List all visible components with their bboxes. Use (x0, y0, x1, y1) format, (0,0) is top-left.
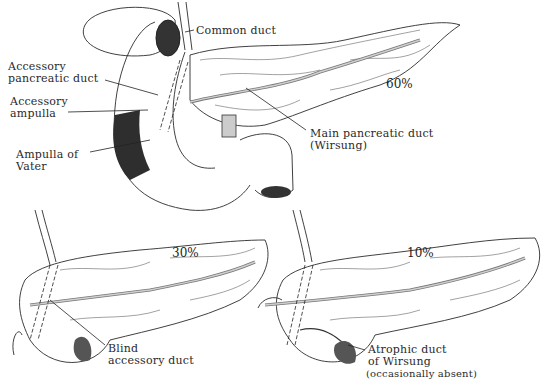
label-ampulla-vater-line2: Vater (16, 161, 47, 173)
leader-main-duct (246, 88, 306, 130)
percentage-30: 30% (172, 246, 199, 260)
label-atrophic-line3: (occasionally absent) (366, 368, 477, 380)
label-accessory-duct-line2: pancreatic duct (8, 73, 98, 85)
label-main-duct-line2: (Wirsung) (310, 140, 367, 152)
illustration-artwork (0, 0, 548, 386)
label-common-duct: Common duct (196, 25, 276, 37)
label-atrophic-line2: of Wirsung (368, 356, 431, 368)
label-blind-accessory-line2: accessory duct (108, 355, 194, 367)
percentage-60: 60% (386, 77, 413, 91)
pancreatic-duct-variations-illustration: Common duct Accessory pancreatic duct Ac… (0, 0, 548, 386)
pancreas-10pct (258, 210, 540, 364)
duodenum (113, 20, 293, 210)
percentage-10: 10% (407, 246, 434, 260)
main-pancreas (190, 23, 460, 127)
label-accessory-ampulla-line2: ampulla (10, 108, 56, 120)
pancreas-30pct (13, 210, 268, 363)
leader-accessory-duct (105, 80, 158, 95)
